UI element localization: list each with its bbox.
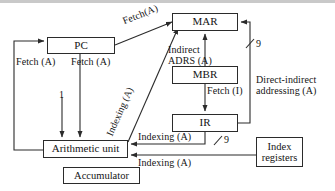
edge-label-fetch-a-right: Fetch (A) <box>71 56 111 67</box>
node-mbr[interactable]: MBR <box>172 66 238 84</box>
node-accumulator[interactable]: Accumulator <box>63 167 140 184</box>
node-accumulator-label: Accumulator <box>74 170 129 181</box>
node-arithmetic-unit-label: Arithmetic unit <box>52 143 120 155</box>
node-index-registers[interactable]: Index registers <box>256 137 303 167</box>
edge-label-fetch-a-right-text: Fetch (A) <box>71 56 111 67</box>
node-mbr-label: MBR <box>193 69 217 81</box>
edge-label-indexing-a-bottom-text: Indexing (A) <box>138 157 191 168</box>
edge-pc-to-mar <box>115 22 172 45</box>
edge-ir-to-mar-loop <box>238 22 250 123</box>
bus-slash-bottom <box>214 136 222 145</box>
edge-label-increment-one-text: 1 <box>59 89 64 100</box>
node-ir-label: IR <box>200 117 211 129</box>
node-index-registers-label: Index registers <box>262 141 298 163</box>
edge-label-indirect-adrs: Indirect ADRS (A) <box>168 33 212 67</box>
edge-label-fetch-i-text: Fetch (I) <box>207 85 243 96</box>
node-arithmetic-unit[interactable]: Arithmetic unit <box>43 140 128 158</box>
edge-label-direct-indirect-text: Direct-indirect addressing (A) <box>256 74 317 96</box>
top-rule-divider <box>0 0 335 3</box>
edge-label-indexing-a-mid: Indexing (A) <box>138 131 191 142</box>
edge-label-bus-width-top-text: 9 <box>256 38 261 49</box>
diagram-canvas: PC MAR MBR IR Arithmetic unit Index regi… <box>0 0 335 191</box>
edge-label-indirect-adrs-text: Indirect ADRS (A) <box>168 44 212 66</box>
node-pc[interactable]: PC <box>47 37 115 54</box>
edge-label-direct-indirect: Direct-indirect addressing (A) <box>256 63 317 97</box>
edge-label-bus-width-bottom: 9 <box>224 134 229 145</box>
edge-label-fetch-a-left: Fetch (A) <box>16 56 56 67</box>
edge-label-indexing-a-mid-text: Indexing (A) <box>138 131 191 142</box>
edge-label-indexing-a-bottom: Indexing (A) <box>138 157 191 168</box>
edge-label-fetch-i: Fetch (I) <box>207 85 243 96</box>
edge-label-bus-width-bottom-text: 9 <box>224 134 229 145</box>
edge-label-fetch-a-left-text: Fetch (A) <box>16 56 56 67</box>
node-ir[interactable]: IR <box>172 114 238 132</box>
edge-label-increment-one: 1 <box>59 89 64 100</box>
edge-label-bus-width-top: 9 <box>256 38 261 49</box>
node-pc-label: PC <box>74 40 87 52</box>
node-mar-label: MAR <box>192 16 217 28</box>
node-mar[interactable]: MAR <box>172 13 238 31</box>
